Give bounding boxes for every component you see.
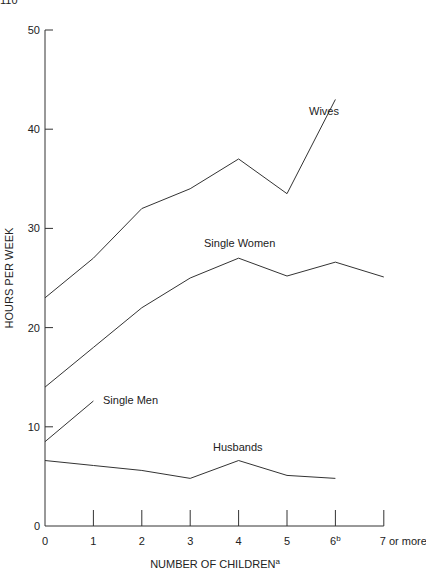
series-line-single-men [45, 401, 93, 442]
x-tick-label: 1 [90, 535, 96, 547]
x-tick-label: 5 [284, 535, 290, 547]
series-line-single-women [45, 258, 384, 387]
series-label-single-men: Single Men [103, 394, 158, 406]
series-labels: WivesSingle WomenSingle MenHusbands [103, 105, 339, 453]
y-tick-label: 40 [28, 123, 40, 135]
y-axis-title: HOURS PER WEEK [3, 227, 15, 329]
series-line-wives [45, 99, 335, 297]
x-tick-label: 3 [187, 535, 193, 547]
series-label-wives: Wives [309, 105, 339, 117]
series-lines [45, 99, 384, 478]
line-chart: 01020304050 0123456b7 or more WivesSingl… [0, 0, 426, 572]
y-tick-label: 20 [28, 322, 40, 334]
series-label-single-women: Single Women [204, 237, 275, 249]
y-axis-ticks: 01020304050 [28, 24, 53, 532]
y-tick-label: 50 [28, 24, 40, 36]
series-label-husbands: Husbands [213, 441, 263, 453]
y-tick-label: 0 [34, 520, 40, 532]
x-axis-ticks: 0123456b7 or more [42, 510, 426, 547]
x-tick-label: 2 [139, 535, 145, 547]
x-tick-label: 0 [42, 535, 48, 547]
series-line-husbands [45, 461, 335, 479]
y-tick-label: 10 [28, 421, 40, 433]
y-tick-label: 30 [28, 222, 40, 234]
x-axis-title: NUMBER OF CHILDRENa [150, 557, 280, 570]
x-tick-label: 6b [330, 534, 341, 547]
x-tick-label: 7 or more [380, 535, 426, 547]
x-tick-label: 4 [236, 535, 242, 547]
